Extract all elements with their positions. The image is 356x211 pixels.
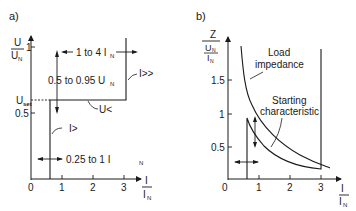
panel-a-x-tick-2: 2 (90, 182, 96, 193)
panel-b-x-axis-label: I I N (339, 183, 349, 208)
svg-text:I: I (145, 175, 148, 186)
panel-a-x-tick-1: 1 (59, 182, 65, 193)
diagram-canvas: a) U U N 1 0.5 0 1 2 3 I I N (0, 0, 356, 211)
svg-text:N: N (343, 202, 347, 208)
svg-text:N: N (139, 160, 143, 166)
svg-text:N: N (110, 53, 114, 59)
svg-text:N: N (110, 81, 114, 87)
starting-label-1: Starting (272, 95, 306, 106)
svg-text:N: N (147, 195, 151, 201)
panel-a-x-tick-3: 3 (121, 182, 127, 193)
load-impedance-label-2: impedance (255, 59, 304, 70)
panel-b-y-tick-1: 1 (219, 109, 225, 120)
load-impedance-label-1: Load (268, 47, 290, 58)
svg-text:N: N (210, 58, 214, 64)
svg-text:0.25 to 1 I: 0.25 to 1 I (66, 154, 110, 165)
range-top-label: 1 to 4 I N (76, 47, 114, 59)
panel-a-x-axis-label: I I N (142, 175, 152, 201)
svg-text:I: I (341, 183, 344, 194)
panel-a-y-axis-label: U U N (11, 37, 24, 62)
svg-text:set: set (23, 101, 32, 107)
panel-a-y-tick-0.5: 0.5 (15, 108, 29, 119)
panel-b-y-tick-1.5: 1.5 (211, 75, 225, 86)
svg-text:I: I (339, 196, 342, 207)
u-set-label: U set (16, 95, 32, 107)
panel-a: a) U U N 1 0.5 0 1 2 3 I I N (9, 10, 154, 201)
starting-leader (271, 118, 282, 147)
svg-text:0.5 to 0.95 U: 0.5 to 0.95 U (48, 75, 105, 86)
panel-b-x-tick-3: 3 (318, 182, 324, 193)
panel-b-x-tick-1: 1 (256, 182, 262, 193)
starting-label-2: characteristic (260, 106, 319, 117)
panel-b-x-tick-0: 0 (222, 182, 228, 193)
panel-b-y-tick-0.5: 0.5 (211, 142, 225, 153)
svg-text:1 to 4 I: 1 to 4 I (76, 47, 107, 58)
svg-text:N: N (212, 47, 216, 53)
load-impedance-leader (250, 72, 263, 79)
i-high-label: I>> (139, 68, 154, 79)
panel-b-x-tick-2: 2 (287, 182, 293, 193)
panel-b: b) Z U N I N 1.5 1 0.5 0 1 2 3 I (196, 10, 349, 208)
panel-b-y-axis-label: Z U N I N (202, 29, 220, 64)
svg-text:Z: Z (210, 29, 216, 40)
range-bottom-label: 0.25 to 1 I N (66, 154, 143, 166)
svg-text:U: U (14, 37, 21, 48)
panel-a-x-tick-0: 0 (28, 182, 34, 193)
i-low-label: I> (69, 123, 78, 134)
panel-a-y-tick-1: 1 (26, 42, 32, 53)
u-low-label: U< (99, 104, 112, 115)
range-voltage-label: 0.5 to 0.95 U N (48, 75, 114, 87)
panel-a-label: a) (9, 10, 19, 22)
svg-text:N: N (18, 56, 22, 62)
svg-text:U: U (205, 43, 212, 53)
svg-text:I: I (143, 189, 146, 200)
panel-b-label: b) (196, 10, 206, 22)
